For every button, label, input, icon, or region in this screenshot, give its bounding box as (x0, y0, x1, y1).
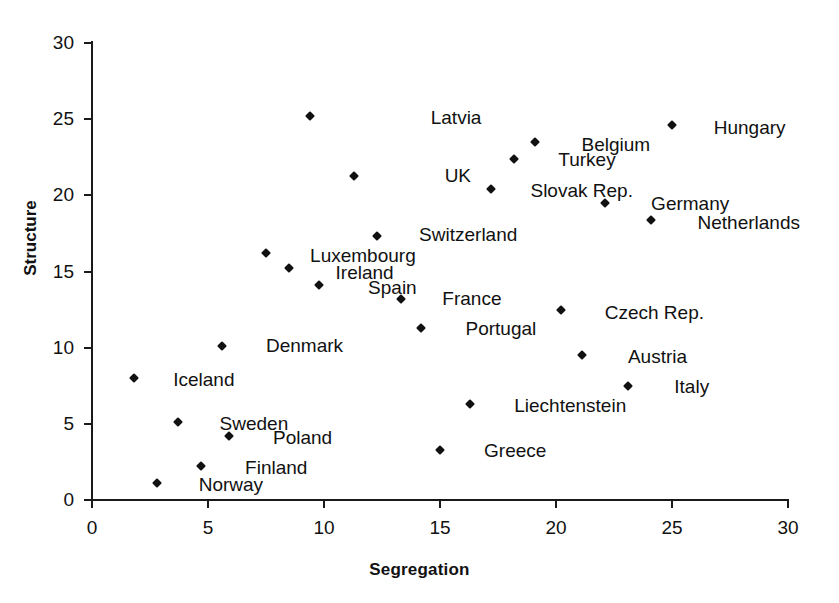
data-point (486, 184, 496, 194)
data-point-label: Denmark (266, 336, 343, 355)
data-point (284, 264, 294, 274)
data-point (129, 373, 139, 383)
data-point (646, 215, 656, 225)
data-point (435, 445, 445, 455)
data-point-label: Switzerland (419, 225, 517, 244)
data-point-label: Norway (199, 475, 263, 494)
data-point (261, 248, 271, 258)
data-point (416, 323, 426, 333)
data-point-label: Czech Rep. (605, 303, 704, 322)
y-axis-title: Structure (21, 193, 41, 283)
data-point-label: Latvia (431, 108, 482, 127)
data-point (465, 399, 475, 409)
data-point (217, 341, 227, 351)
data-point-label: Slovak Rep. (530, 181, 632, 200)
data-points-layer: LatviaHungaryBelgiumTurkeyUKSlovak Rep.G… (0, 0, 839, 603)
data-point (349, 171, 359, 181)
data-point-label: UK (445, 166, 471, 185)
data-point (372, 232, 382, 242)
scatter-chart: 051015202530051015202530 LatviaHungaryBe… (0, 0, 839, 603)
data-point (577, 350, 587, 360)
data-point (314, 280, 324, 290)
data-point-label: Germany (651, 194, 729, 213)
data-point (509, 154, 519, 164)
data-point-label: Italy (674, 377, 709, 396)
data-point (152, 478, 162, 488)
data-point-label: Spain (368, 278, 417, 297)
data-point-label: Netherlands (698, 213, 800, 232)
data-point (667, 120, 677, 130)
data-point-label: France (442, 289, 501, 308)
data-point-label: Poland (273, 428, 332, 447)
data-point-label: Austria (628, 347, 687, 366)
data-point-label: Portugal (466, 319, 537, 338)
data-point (305, 111, 315, 121)
data-point-label: Turkey (558, 150, 615, 169)
data-point-label: Iceland (173, 370, 234, 389)
data-point (530, 137, 540, 147)
data-point (196, 462, 206, 472)
data-point (623, 381, 633, 391)
data-point-label: Hungary (714, 118, 786, 137)
x-axis-title: Segregation (0, 560, 839, 580)
data-point (173, 417, 183, 427)
data-point-label: Liechtenstein (514, 396, 626, 415)
data-point-label: Greece (484, 441, 546, 460)
data-point (556, 305, 566, 315)
